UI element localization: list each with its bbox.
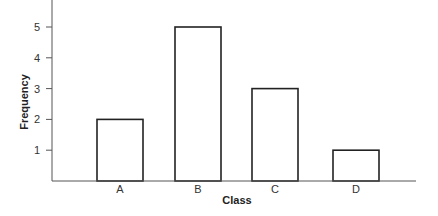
y-axis-ticks: 12345 — [34, 21, 52, 156]
y-tick-label: 4 — [34, 52, 40, 64]
y-tick-label: 3 — [34, 83, 40, 95]
x-tick-label: D — [352, 183, 360, 195]
x-tick-label: C — [271, 183, 279, 195]
bar-c — [252, 89, 298, 181]
x-tick-label: B — [194, 183, 201, 195]
bar-b — [175, 27, 221, 181]
x-tick-label: A — [116, 183, 124, 195]
bar-chart: 12345 ABCD Class Frequency — [0, 0, 438, 216]
y-tick-label: 2 — [34, 113, 40, 125]
y-tick-label: 1 — [34, 144, 40, 156]
x-axis-title: Class — [222, 194, 251, 206]
y-axis-title: Frequency — [18, 73, 30, 130]
bar-d — [333, 150, 379, 181]
bar-a — [97, 119, 143, 181]
bars — [97, 27, 379, 181]
y-tick-label: 5 — [34, 21, 40, 33]
